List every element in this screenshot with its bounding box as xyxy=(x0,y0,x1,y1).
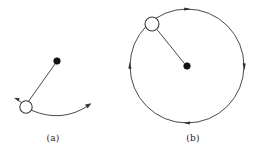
panel-b-ball-icon xyxy=(145,17,159,31)
panel-b-direction-arrow-bottom xyxy=(183,121,190,124)
panel-b-radius-line xyxy=(157,30,184,64)
panel-b-direction-arrow-right xyxy=(243,63,246,70)
panel-a-ball-icon xyxy=(20,101,32,113)
panel-a-swing-arc xyxy=(32,106,89,116)
panel-a-pivot-dot xyxy=(54,58,61,65)
figure-root: (a) (b) xyxy=(0,0,254,160)
panel-b-group xyxy=(128,7,246,124)
panel-a-string xyxy=(28,64,55,102)
panel-b-caption: (b) xyxy=(173,133,213,143)
panel-b-direction-arrow-top xyxy=(184,7,191,10)
panel-a-caption: (a) xyxy=(33,133,73,143)
panel-a-group xyxy=(15,58,92,116)
panel-b-center-dot xyxy=(184,63,191,70)
panel-b-direction-arrow-left xyxy=(128,62,131,69)
